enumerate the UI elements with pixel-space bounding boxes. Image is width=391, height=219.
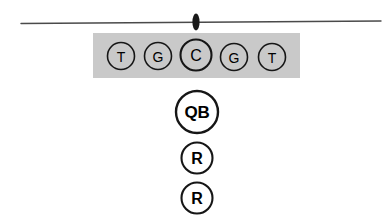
player-label-left-tackle: T — [117, 49, 126, 65]
player-running-back-2[interactable]: R — [182, 183, 213, 214]
line-of-scrimmage — [21, 21, 381, 24]
player-quarterback[interactable]: QB — [176, 91, 218, 133]
player-running-back-1[interactable]: R — [182, 143, 213, 174]
player-label-right-tackle: T — [268, 50, 277, 66]
player-label-center: C — [190, 47, 202, 64]
player-label-quarterback: QB — [185, 103, 210, 122]
formation-diagram: TGCGTQBRR — [0, 0, 391, 219]
player-label-running-back-1: R — [191, 150, 203, 167]
formation-canvas: TGCGTQBRR — [0, 0, 391, 219]
player-label-right-guard: G — [229, 50, 240, 66]
football-marker-icon — [192, 14, 199, 31]
player-label-running-back-2: R — [191, 190, 203, 207]
player-label-left-guard: G — [153, 49, 164, 65]
